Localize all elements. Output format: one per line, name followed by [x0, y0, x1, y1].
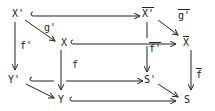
- label-f: f: [72, 60, 78, 70]
- node-x: X: [61, 38, 67, 48]
- node-s-prime: S': [144, 75, 156, 85]
- node-y-prime: Y': [8, 75, 20, 85]
- label-fbar-prime: f': [149, 44, 161, 54]
- node-xbar-prime: X': [142, 9, 154, 19]
- hook-x-prime-to-xbar-prime: [31, 12, 33, 16]
- node-xbar: X: [183, 38, 189, 48]
- arrow-gbar-prime: [158, 20, 178, 35]
- node-y: Y: [58, 95, 64, 105]
- node-s: S: [184, 95, 190, 105]
- arrow-s-prime-to-s: [158, 84, 178, 97]
- label-gbar-prime: g': [178, 11, 190, 21]
- node-x-prime: X': [12, 9, 24, 19]
- arrow-y-prime-to-y: [26, 84, 54, 98]
- label-f-prime: f': [20, 41, 32, 51]
- label-g-prime: g': [44, 23, 56, 33]
- label-fbar: f: [196, 70, 202, 80]
